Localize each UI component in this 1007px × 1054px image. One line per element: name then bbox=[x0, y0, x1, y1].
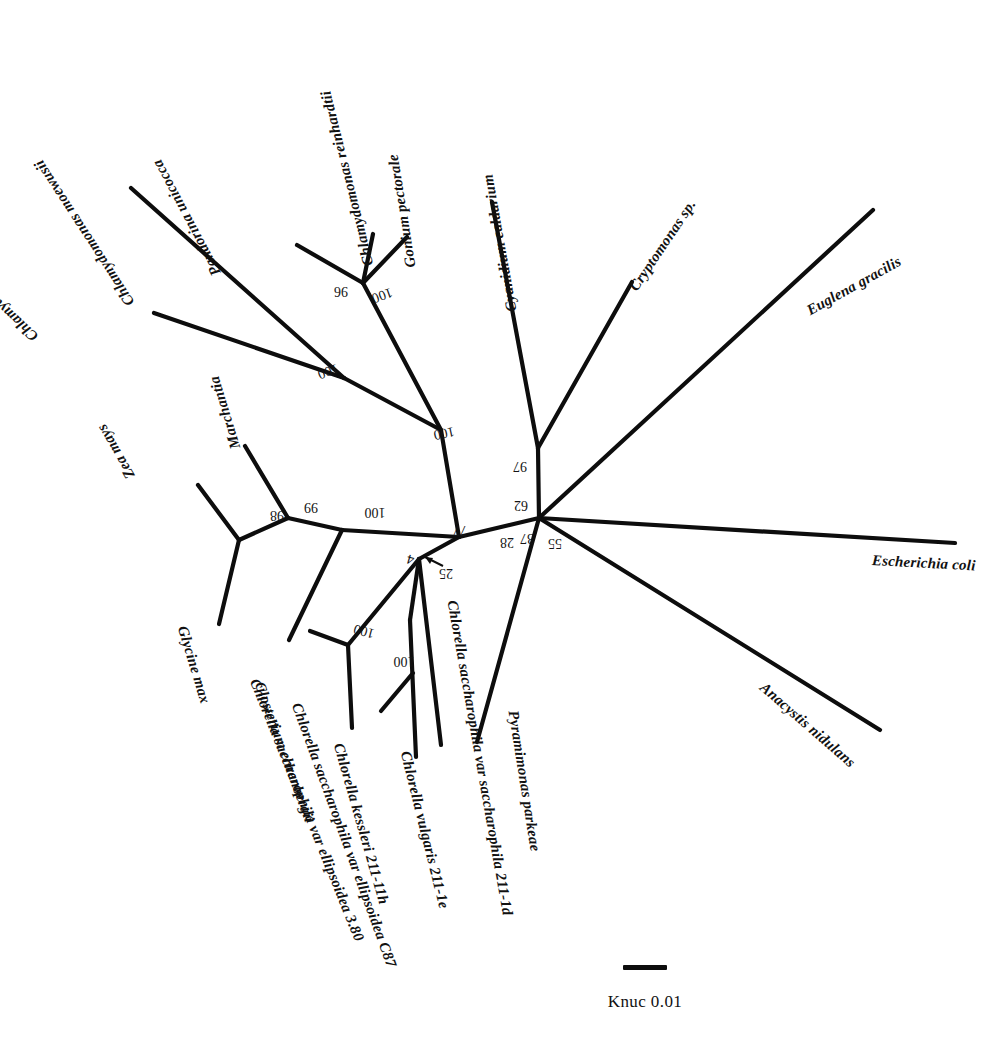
tree-branch bbox=[419, 537, 459, 559]
tree-branch bbox=[539, 518, 955, 543]
tree-branch bbox=[310, 631, 348, 645]
bootstrap-value-boot-gonium-reinhardtii: 96 bbox=[334, 283, 348, 299]
tree-branch bbox=[441, 430, 459, 537]
tree-branch bbox=[419, 559, 441, 745]
bootstrap-value-boot-55: 55 bbox=[548, 535, 562, 551]
bootstrap-value-boot-chlorella-b: 100 bbox=[394, 653, 415, 669]
tree-branch bbox=[288, 518, 342, 530]
tree-branch bbox=[219, 540, 239, 624]
bootstrap-value-boot-chlorella-stem: 77 bbox=[453, 522, 467, 538]
phylogenetic-tree-figure: Chlamydomonas parkeaeChlamydomonas moewu… bbox=[0, 0, 1007, 1054]
tree-branch bbox=[348, 645, 352, 728]
scale-bar bbox=[623, 965, 667, 970]
tree-branch bbox=[297, 245, 363, 283]
bootstrap-value-boot-plastid-core: 62 bbox=[514, 497, 528, 513]
tree-branch bbox=[381, 673, 413, 711]
scale-bar-group: Knuc 0.01 bbox=[540, 965, 750, 1012]
tree-branch bbox=[131, 188, 344, 378]
bootstrap-value-boot-red-crypto: 97 bbox=[513, 458, 527, 474]
tree-branches bbox=[131, 188, 955, 757]
scale-bar-label: Knuc 0.01 bbox=[540, 992, 750, 1012]
tree-branch bbox=[539, 518, 880, 730]
bootstrap-value-boot-seed-plants: 98 bbox=[270, 507, 284, 523]
tree-branch bbox=[342, 530, 459, 537]
tree-branch bbox=[538, 448, 539, 518]
tree-branch bbox=[198, 485, 239, 540]
tree-branch bbox=[289, 530, 342, 640]
bootstrap-value-boot-28: 28 bbox=[500, 534, 514, 550]
bootstrap-value-boot-37: 37 bbox=[520, 530, 534, 546]
tree-branch bbox=[539, 210, 873, 518]
bootstrap-value-boot-25: 25 bbox=[439, 565, 453, 581]
tree-branch bbox=[477, 518, 539, 742]
bootstrap-value-boot-streptophyte: 100 bbox=[365, 504, 386, 520]
tree-branch bbox=[538, 282, 632, 448]
bootstrap-value-boot-land-plants: 99 bbox=[304, 499, 318, 515]
tree-branch bbox=[410, 620, 416, 757]
